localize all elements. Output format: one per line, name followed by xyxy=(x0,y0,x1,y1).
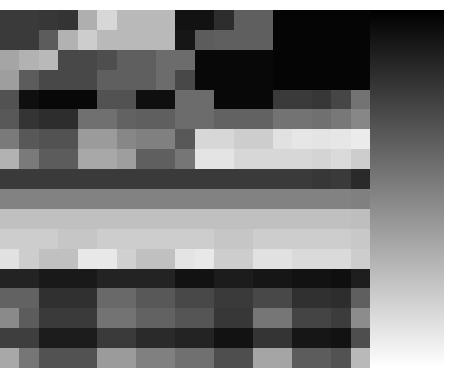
figure-canvas xyxy=(0,0,459,380)
heatmap-image xyxy=(0,10,370,368)
colorbar-gradient xyxy=(370,10,444,368)
